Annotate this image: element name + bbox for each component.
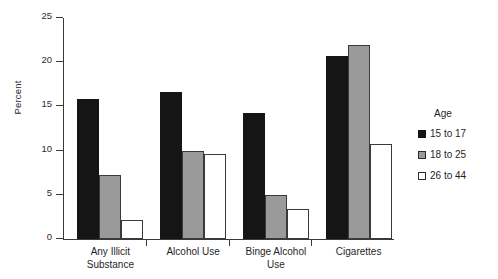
x-category-label: Any IllicitSubstance (62, 246, 158, 271)
bar (243, 113, 265, 239)
legend-label: 15 to 17 (430, 128, 466, 139)
bar (77, 99, 99, 239)
bar (99, 175, 121, 239)
bar-group (326, 18, 392, 239)
y-tick: 10 (56, 150, 63, 151)
bar (182, 151, 204, 239)
y-tick: 0 (56, 238, 63, 239)
bar-chart-figure: Percent 0510152025 Any IllicitSubstanceA… (0, 0, 498, 279)
legend-item[interactable]: 26 to 44 (418, 170, 496, 181)
y-axis-label: Percent (12, 63, 23, 133)
legend-label: 26 to 44 (430, 170, 466, 181)
bar (121, 220, 143, 239)
y-tick: 5 (56, 194, 63, 195)
legend-item[interactable]: 18 to 25 (418, 149, 496, 160)
y-tick-label: 15 (41, 98, 52, 109)
y-tick-label: 0 (47, 231, 52, 242)
y-axis-line (63, 18, 64, 240)
bar (287, 209, 309, 239)
bar (348, 45, 370, 239)
bar (160, 92, 182, 239)
x-category-label: Binge AlcoholUse (228, 246, 324, 271)
bar (204, 154, 226, 239)
x-category-label-line: Any Illicit (62, 246, 158, 259)
bar (370, 144, 392, 239)
legend-items: 15 to 1718 to 2526 to 44 (418, 128, 496, 181)
y-tick: 15 (56, 105, 63, 106)
legend-title: Age (434, 108, 496, 119)
legend-swatch-icon (418, 151, 426, 159)
legend-item[interactable]: 15 to 17 (418, 128, 496, 139)
bar (326, 56, 348, 239)
x-category-label-line: Substance (62, 259, 158, 272)
bar-group (160, 18, 226, 239)
x-category-label-line: Alcohol Use (145, 246, 241, 259)
legend-swatch-icon (418, 130, 426, 138)
x-category-label-line: Binge Alcohol (228, 246, 324, 259)
y-tick-label: 10 (41, 143, 52, 154)
bar (265, 195, 287, 239)
x-category-label-line: Cigarettes (311, 246, 407, 259)
legend-label: 18 to 25 (430, 149, 466, 160)
x-category-label: Cigarettes (311, 246, 407, 259)
x-category-label-line: Use (228, 259, 324, 272)
y-tick: 20 (56, 61, 63, 62)
legend: Age 15 to 1718 to 2526 to 44 (418, 108, 496, 191)
bar-group (243, 18, 309, 239)
legend-swatch-icon (418, 172, 426, 180)
x-category-label: Alcohol Use (145, 246, 241, 259)
bar-group (77, 18, 143, 239)
y-tick-label: 5 (47, 187, 52, 198)
plot-area: 0510152025 (63, 18, 394, 240)
y-tick: 25 (56, 17, 63, 18)
y-tick-label: 20 (41, 54, 52, 65)
y-tick-label: 25 (41, 10, 52, 21)
